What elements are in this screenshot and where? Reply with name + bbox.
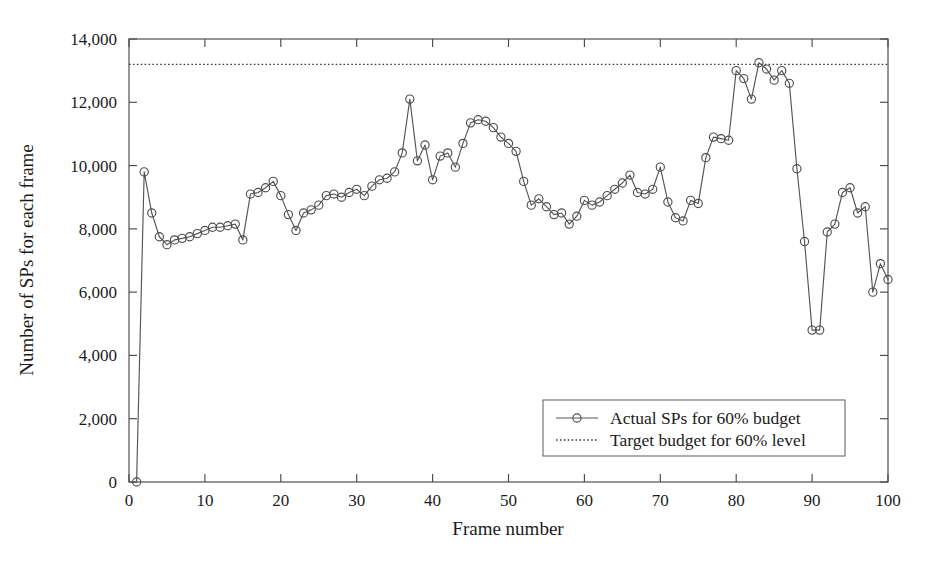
y-tick-label: 8,000 (79, 220, 117, 239)
y-tick-label: 2,000 (79, 410, 117, 429)
y-tick-label: 14,000 (70, 30, 117, 49)
y-tick-label: 0 (109, 473, 118, 492)
legend-label-target: Target budget for 60% level (610, 430, 806, 450)
x-tick-label: 30 (348, 491, 365, 510)
y-tick-label: 10,000 (70, 157, 117, 176)
x-tick-label: 100 (875, 491, 901, 510)
line-chart-svg: 02,0004,0006,0008,00010,00012,00014,000 … (0, 0, 927, 566)
x-tick-label: 70 (652, 491, 669, 510)
chart-figure: 02,0004,0006,0008,00010,00012,00014,000 … (0, 0, 927, 566)
y-tick-label: 12,000 (70, 93, 117, 112)
x-tick-label: 90 (804, 491, 821, 510)
x-tick-label: 0 (125, 491, 134, 510)
y-tick-label: 4,000 (79, 346, 117, 365)
y-axis-tick-labels: 02,0004,0006,0008,00010,00012,00014,000 (70, 30, 117, 492)
legend-label-actual: Actual SPs for 60% budget (610, 408, 801, 428)
x-axis-tick-labels: 0102030405060708090100 (125, 491, 901, 510)
x-axis-title: Frame number (452, 518, 564, 539)
x-tick-label: 10 (196, 491, 213, 510)
y-axis-title: Number of SPs for each frame (16, 144, 37, 376)
chart-legend: Actual SPs for 60% budget Target budget … (543, 400, 845, 456)
y-tick-label: 6,000 (79, 283, 117, 302)
x-tick-label: 40 (424, 491, 441, 510)
x-tick-label: 20 (272, 491, 289, 510)
x-tick-label: 50 (500, 491, 517, 510)
x-tick-label: 60 (576, 491, 593, 510)
x-tick-label: 80 (728, 491, 745, 510)
